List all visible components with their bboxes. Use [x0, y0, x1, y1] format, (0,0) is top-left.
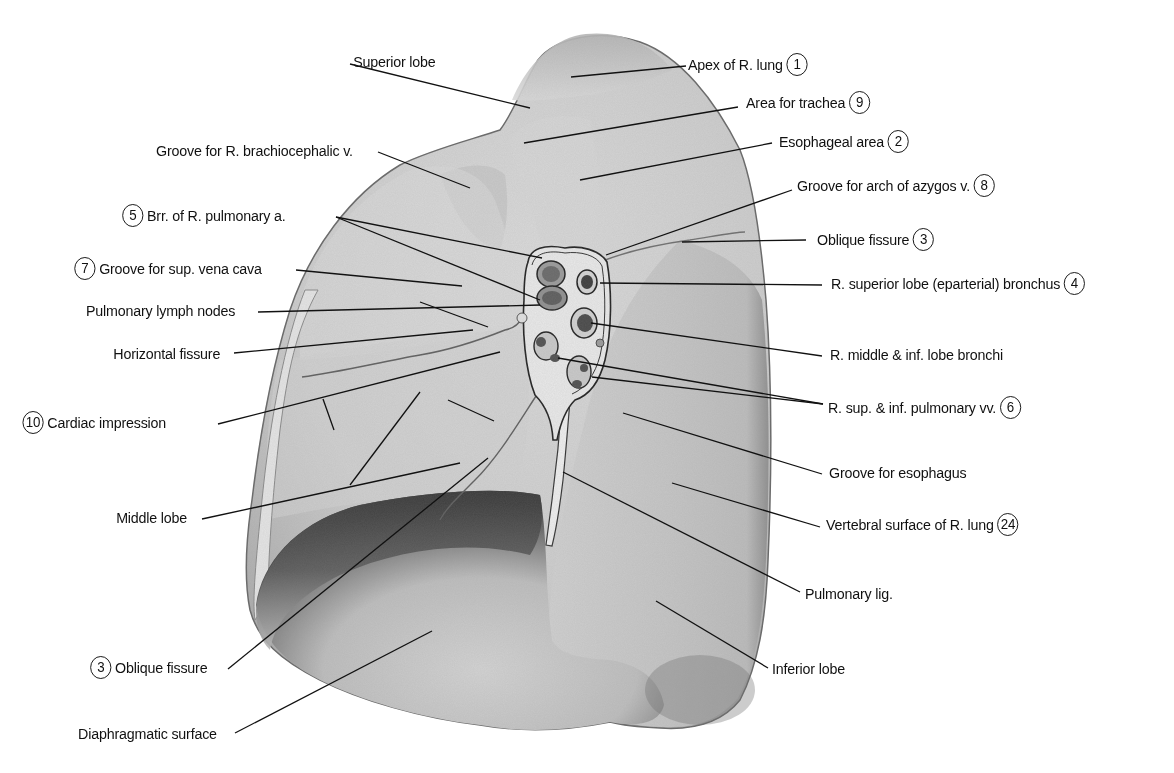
- label-groove-brachiocephalic: Groove for R. brachiocephalic v.: [156, 141, 353, 161]
- label-text: Groove for arch of azygos v.: [797, 177, 970, 194]
- label-text: Groove for R. brachiocephalic v.: [156, 142, 353, 159]
- label-text: Diaphragmatic surface: [78, 725, 217, 742]
- label-groove-azygos: Groove for arch of azygos v.8: [797, 176, 995, 197]
- label-groove-esophagus: Groove for esophagus: [829, 463, 966, 483]
- label-superior-lobe: Superior lobe: [353, 52, 435, 72]
- label-r-superior-bronchus: R. superior lobe (eparterial) bronchus4: [831, 274, 1085, 295]
- reference-number-badge: 8: [974, 174, 995, 197]
- label-text: R. middle & inf. lobe bronchi: [830, 346, 1003, 363]
- label-area-trachea: Area for trachea9: [746, 93, 870, 114]
- label-text: Area for trachea: [746, 94, 845, 111]
- label-esophageal-area: Esophageal area2: [779, 132, 909, 153]
- label-text: Cardiac impression: [47, 414, 166, 431]
- label-brr-pulmonary-a: 5Brr. of R. pulmonary a.: [122, 206, 285, 227]
- label-cardiac-impression: 10Cardiac impression: [22, 413, 166, 434]
- label-r-middle-inf-bronchi: R. middle & inf. lobe bronchi: [830, 345, 1003, 365]
- label-text: Horizontal fissure: [113, 345, 220, 362]
- label-middle-lobe: Middle lobe: [116, 508, 187, 528]
- label-text: Oblique fissure: [115, 659, 207, 676]
- reference-number-badge: 10: [22, 411, 43, 434]
- anatomy-figure: Superior lobeGroove for R. brachiocephal…: [0, 0, 1174, 773]
- label-oblique-fissure-right: Oblique fissure3: [817, 230, 934, 251]
- label-groove-svc: 7Groove for sup. vena cava: [74, 259, 261, 280]
- label-text: Apex of R. lung: [688, 56, 783, 73]
- label-text: R. sup. & inf. pulmonary vv.: [828, 399, 996, 416]
- label-text: Oblique fissure: [817, 231, 909, 248]
- reference-number-badge: 5: [122, 204, 143, 227]
- label-text: Groove for sup. vena cava: [99, 260, 262, 277]
- lung-texture: [246, 36, 770, 730]
- reference-number-badge: 3: [90, 656, 111, 679]
- label-oblique-fissure-left: 3Oblique fissure: [90, 658, 207, 679]
- label-pulmonary-lymph-nodes: Pulmonary lymph nodes: [86, 301, 235, 321]
- label-apex: Apex of R. lung1: [688, 55, 808, 76]
- label-text: Inferior lobe: [772, 660, 845, 677]
- label-text: R. superior lobe (eparterial) bronchus: [831, 275, 1060, 292]
- label-diaphragmatic-surface: Diaphragmatic surface: [78, 724, 217, 744]
- label-text: Pulmonary lig.: [805, 585, 893, 602]
- reference-number-badge: 1: [786, 53, 807, 76]
- label-text: Brr. of R. pulmonary a.: [147, 207, 285, 224]
- label-horizontal-fissure: Horizontal fissure: [113, 344, 220, 364]
- reference-number-badge: 9: [849, 91, 870, 114]
- label-text: Middle lobe: [116, 509, 187, 526]
- label-text: Vertebral surface of R. lung: [826, 516, 994, 533]
- reference-number-badge: 6: [1000, 396, 1021, 419]
- label-vertebral-surface: Vertebral surface of R. lung24: [826, 515, 1018, 536]
- label-text: Pulmonary lymph nodes: [86, 302, 235, 319]
- reference-number-badge: 4: [1064, 272, 1085, 295]
- label-pulmonary-lig: Pulmonary lig.: [805, 584, 893, 604]
- label-text: Groove for esophagus: [829, 464, 966, 481]
- label-r-pulmonary-vv: R. sup. & inf. pulmonary vv.6: [828, 398, 1021, 419]
- label-text: Superior lobe: [353, 53, 435, 70]
- label-inferior-lobe: Inferior lobe: [772, 659, 845, 679]
- label-text: Esophageal area: [779, 133, 884, 150]
- reference-number-badge: 3: [913, 228, 934, 251]
- reference-number-badge: 24: [997, 513, 1018, 536]
- reference-number-badge: 2: [888, 130, 909, 153]
- reference-number-badge: 7: [74, 257, 95, 280]
